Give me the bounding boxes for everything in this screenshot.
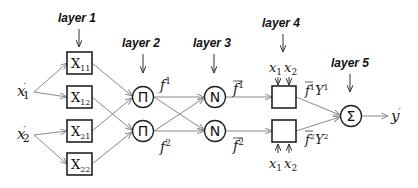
layer3-node-n-2: N (205, 121, 226, 142)
layer-1-label: layer 1 (58, 11, 96, 25)
layer1-node-x22: X22 (67, 153, 92, 175)
edge-pi2-n1 (154, 98, 204, 131)
label-f2: f2 (159, 138, 171, 155)
product-icon: Π (138, 89, 149, 105)
layer-5-label: layer 5 (331, 56, 369, 70)
layer5-node-sigma: Σ (341, 106, 362, 127)
anfis-diagram: layer 1 layer 2 layer 3 layer 4 layer 5 … (0, 0, 418, 188)
edge-pi1-n2 (154, 97, 204, 130)
svg-text:f2Y2: f2Y2 (304, 132, 329, 147)
layer2-node-pi-1: Π (133, 87, 154, 108)
input-x2: x′2 (17, 124, 30, 145)
layer2-node-pi-2: Π (133, 121, 154, 142)
label-f1: f1 (159, 76, 171, 93)
edge-x12-pi2 (92, 97, 132, 130)
edge-x11-pi1 (92, 63, 132, 96)
summation-icon: Σ (347, 108, 356, 124)
layer-2-label: layer 2 (122, 36, 160, 50)
input-x1: x′1 (17, 81, 30, 102)
label-fbar1-y1: f1Y1 (304, 82, 329, 98)
layer4-node-1 (272, 86, 296, 108)
layer3-node-n-1: N (205, 87, 226, 108)
normalize-icon: N (210, 89, 220, 105)
layer4-bottom-inputs: x1x2 (269, 156, 297, 173)
edge-x21-pi1 (92, 98, 132, 131)
svg-text:f1: f1 (232, 80, 244, 97)
product-icon: Π (138, 123, 149, 139)
label-fbar1: f1 (232, 80, 244, 97)
edge-box2-sigma (296, 117, 340, 131)
edge-x2-x22 (34, 135, 67, 164)
edge-x1-x11 (34, 63, 67, 92)
edge-box1-sigma (296, 97, 340, 115)
layer1-node-x11: X11 (67, 52, 92, 74)
layer4-top-inputs: x1x2 (269, 60, 297, 77)
label-fbar2-y2: f2Y2 (304, 131, 329, 147)
output-y: y′ (390, 106, 401, 125)
layer4-node-2 (272, 120, 296, 142)
layer1-node-x12: X12 (67, 86, 92, 108)
normalize-icon: N (210, 123, 220, 139)
svg-text:f1Y1: f1Y1 (304, 83, 329, 98)
layer-3-label: layer 3 (193, 36, 231, 50)
label-fbar2: f2 (232, 137, 244, 154)
layer1-node-x21: X21 (67, 120, 92, 142)
svg-text:f2: f2 (232, 137, 244, 154)
edge-x1-x12 (34, 92, 67, 97)
layer-4-label: layer 4 (262, 16, 300, 30)
edge-x2-x21 (34, 131, 67, 135)
edge-x22-pi2 (92, 132, 132, 164)
